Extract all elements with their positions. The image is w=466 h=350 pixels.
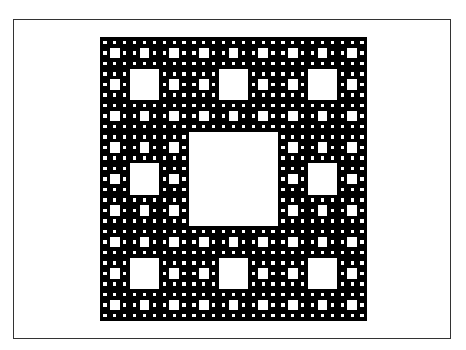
sierpinski-carpet [100,37,367,321]
carpet-graphic [100,37,367,321]
carpet-holes [103,41,363,318]
